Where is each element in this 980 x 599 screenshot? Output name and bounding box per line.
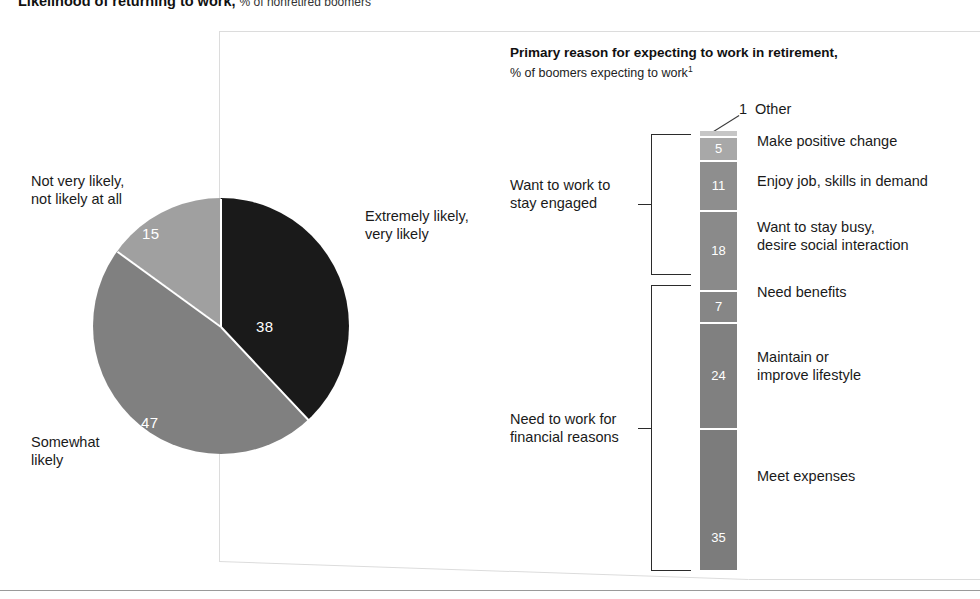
pie-label-extremely-likely-line2: very likely	[365, 225, 469, 243]
page-title-bold: Likelihood of returning to work,	[18, 0, 236, 9]
bracket-spine	[651, 285, 652, 571]
pie-label-not-likely-line1: Not very likely,	[31, 172, 124, 190]
bracket-bottom-arm	[651, 274, 691, 275]
bar-label-enjoy-job: Enjoy job, skills in demand	[757, 172, 928, 190]
group-label-engaged: Want to work to stay engaged	[510, 176, 610, 212]
bracket-top-arm	[651, 134, 691, 135]
reason-heading-line1: Primary reason for expecting to work in …	[510, 44, 838, 61]
bar-value-maintain-lifestyle: 24	[700, 368, 737, 383]
pie-label-somewhat-likely-line1: Somewhat	[31, 433, 100, 451]
pie-value-somewhat-likely: 47	[141, 414, 158, 431]
bar-value-meet-expenses: 35	[700, 530, 737, 545]
pie-label-somewhat-likely: Somewhat likely	[31, 433, 100, 469]
callout-frame-bottom	[749, 579, 980, 580]
bracket-want-to-work-engaged	[651, 134, 691, 275]
bar-label-stay-busy-line1: Want to stay busy,	[757, 218, 909, 236]
bar-segment-stay-busy[interactable]: 18	[700, 212, 737, 290]
bar-label-need-benefits: Need benefits	[757, 283, 846, 301]
group-label-financial: Need to work for financial reasons	[510, 410, 619, 446]
bar-segment-enjoy-job[interactable]: 11	[700, 162, 737, 210]
bar-segment-need-benefits[interactable]: 7	[700, 292, 737, 322]
page-title: Likelihood of returning to work, % of no…	[18, 0, 371, 11]
bracket-tick	[638, 428, 651, 429]
reason-panel-heading: Primary reason for expecting to work in …	[510, 44, 838, 82]
bar-label-make-positive-change: Make positive change	[757, 132, 897, 150]
bar-value-need-benefits: 7	[700, 299, 737, 314]
other-callout: 1 Other	[731, 101, 791, 117]
other-callout-label: Other	[755, 101, 791, 117]
pie-label-somewhat-likely-line2: likely	[31, 451, 100, 469]
bracket-spine	[651, 134, 652, 275]
pie-label-extremely-likely-line1: Extremely likely,	[365, 207, 469, 225]
pie-separator-1	[220, 326, 309, 421]
group-label-engaged-line2: stay engaged	[510, 194, 610, 212]
bar-label-stay-busy: Want to stay busy, desire social interac…	[757, 218, 909, 254]
bar-label-meet-expenses: Meet expenses	[757, 467, 855, 485]
bracket-bottom-arm	[651, 570, 691, 571]
bar-label-maintain-lifestyle-line2: improve lifestyle	[757, 366, 861, 384]
bracket-top-arm	[651, 285, 691, 286]
pie-separator-0	[220, 199, 222, 327]
footnote-marker: 1	[688, 64, 693, 74]
pie-label-not-likely-line2: not likely at all	[31, 190, 124, 208]
group-label-financial-line1: Need to work for	[510, 410, 619, 428]
bar-label-maintain-lifestyle: Maintain or improve lifestyle	[757, 348, 861, 384]
group-label-financial-line2: financial reasons	[510, 428, 619, 446]
bar-value-enjoy-job: 11	[700, 178, 737, 193]
bracket-need-financial	[651, 285, 691, 571]
bracket-tick	[638, 204, 651, 205]
reason-subheading-text: % of boomers expecting to work	[510, 66, 688, 80]
group-label-engaged-line1: Want to work to	[510, 176, 610, 194]
exhibit-canvas: Likelihood of returning to work, % of no…	[0, 0, 980, 599]
pie-label-not-likely: Not very likely, not likely at all	[31, 172, 124, 208]
bar-segment-meet-expenses[interactable]: 35	[700, 430, 737, 570]
callout-frame-top	[219, 31, 980, 32]
bar-value-stay-busy: 18	[700, 243, 737, 258]
reason-heading-line2: % of boomers expecting to work1	[510, 61, 838, 82]
pie-label-extremely-likely: Extremely likely, very likely	[365, 207, 469, 243]
pie-value-extremely-likely: 38	[256, 318, 273, 335]
footer-rule	[0, 590, 980, 591]
bar-segment-make-positive-change[interactable]: 5	[700, 138, 737, 160]
page-title-sub: % of nonretired boomers	[240, 0, 371, 9]
bar-segment-maintain-lifestyle[interactable]: 24	[700, 324, 737, 428]
pie-separator-2	[117, 251, 222, 328]
bar-value-make-positive-change: 5	[700, 141, 737, 156]
stacked-bar-chart: 5 11 18 7 24 35	[700, 131, 737, 570]
pie-value-not-likely: 15	[142, 225, 159, 242]
bar-label-maintain-lifestyle-line1: Maintain or	[757, 348, 861, 366]
pie-chart: 38 47 15	[93, 198, 349, 454]
bar-label-stay-busy-line2: desire social interaction	[757, 236, 909, 254]
